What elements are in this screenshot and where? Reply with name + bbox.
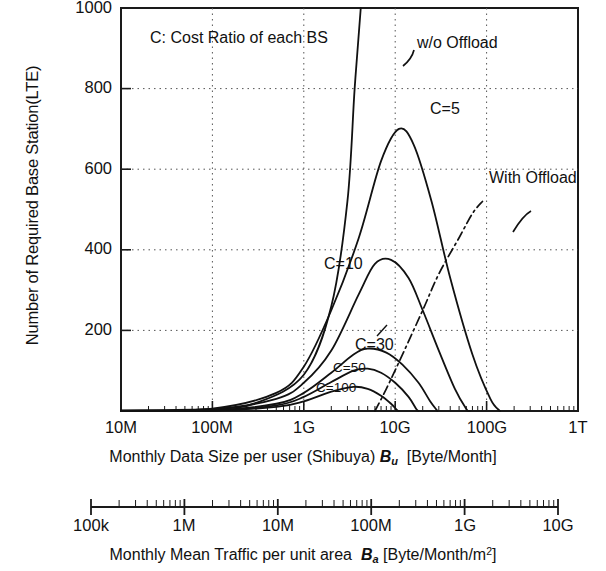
y-tick-400: 400 [42,239,112,258]
y-axis-label: Number of Required Base Station(LTE) [23,6,42,406]
curve-label-c100: C=100 [316,380,356,395]
x2-axis-label-text: Monthly Mean Traffic per unit area [110,546,353,563]
curve-label-c5: C=5 [430,100,460,118]
x-axis-symbol-sub: u [391,455,398,467]
x-axis-label: Monthly Data Size per user (Shibuya) Bu … [0,448,606,467]
x2-axis-unit-pre: [Byte/Month/m [383,546,486,563]
secondary-axis [91,499,558,515]
x2-axis-label: Monthly Mean Traffic per unit area Ba [B… [0,545,606,565]
y-tick-600: 600 [42,159,112,178]
cost-ratio-note: C: Cost Ratio of each BS [150,29,328,47]
y-tick-800: 800 [42,78,112,97]
wo-offload-label: w/o Offload [417,34,498,52]
x-tick-10G: 10G [350,418,440,437]
curve-label-c30: C=30 [355,336,394,354]
x-tick-10M: 10M [76,418,166,437]
x-axis-unit: [Byte/Month] [407,448,497,465]
x2-tick-100M: 100M [326,516,416,535]
x2-axis-unit-post: ] [492,546,496,563]
x-tick-1G: 1G [259,418,349,437]
x-axis-label-text: Monthly Data Size per user (Shibuya) [109,448,375,465]
curve-label-c10: C=10 [324,255,363,273]
x-tick-100G: 100G [442,418,532,437]
curve-label-c50: C=50 [333,360,366,375]
x2-tick-1M: 1M [139,516,229,535]
x-axis-symbol: B [380,448,392,465]
x2-tick-100k: 100k [46,516,136,535]
plot-frame [121,8,578,411]
x2-axis-symbol: B [361,546,373,563]
x-tick-100M: 100M [167,418,257,437]
y-tick-200: 200 [42,320,112,339]
y-tick-1000: 1000 [42,0,112,17]
with-offload-label: With Offload [489,169,577,187]
x-tick-1T: 1T [533,418,606,437]
x2-tick-1G: 1G [420,516,510,535]
x2-axis-symbol-sub: a [372,553,378,565]
x2-tick-10G: 10G [513,516,603,535]
x2-tick-10M: 10M [233,516,323,535]
